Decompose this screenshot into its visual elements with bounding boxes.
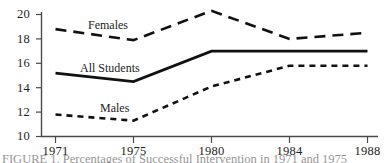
y-tick-label-20: 20 — [6, 7, 30, 22]
series-label-males: Males — [100, 101, 129, 116]
line-chart-canvas — [0, 0, 390, 163]
series-label-all-students: All Students — [80, 61, 140, 76]
y-axis-ticks — [36, 15, 42, 137]
chart-figure: 10 12 14 16 18 20 1971 1975 1980 1984 19… — [0, 0, 390, 163]
y-tick-label-16: 16 — [6, 56, 30, 71]
series-label-females: Females — [88, 18, 128, 33]
y-tick-label-14: 14 — [6, 81, 30, 96]
figure-caption: FIGURE 1. Percentages of Successful Inte… — [2, 153, 388, 163]
x-axis-ticks — [56, 137, 368, 144]
y-tick-label-18: 18 — [6, 32, 30, 47]
y-tick-label-12: 12 — [6, 105, 30, 120]
y-tick-label-10: 10 — [6, 129, 30, 144]
